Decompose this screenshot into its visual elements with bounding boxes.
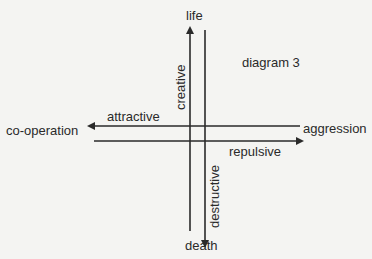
arrow-label-creative: creative: [174, 64, 187, 110]
axis-label-cooperation: co-operation: [6, 124, 78, 137]
arrow-label-attractive: attractive: [107, 110, 160, 123]
axis-label-life: life: [186, 9, 203, 22]
diagram-title: diagram 3: [242, 56, 300, 69]
arrow-label-repulsive: repulsive: [229, 145, 281, 158]
axis-label-death: death: [185, 239, 218, 252]
arrow-label-destructive: destructive: [208, 165, 221, 228]
axis-label-aggression: aggression: [303, 122, 367, 135]
